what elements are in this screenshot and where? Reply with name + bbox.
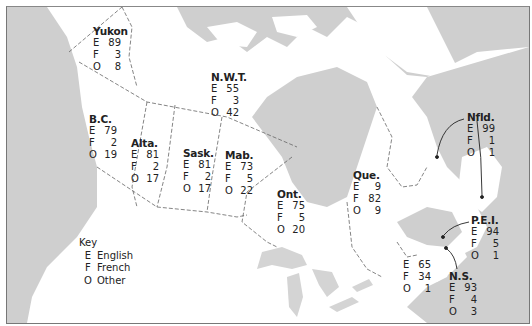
code-e: E: [131, 149, 143, 161]
code-f: F: [225, 173, 237, 185]
value-other: 1: [479, 147, 495, 159]
region-name: Nfld.: [467, 111, 495, 123]
code-o: O: [277, 224, 289, 236]
value-other: 3: [461, 306, 477, 318]
code-o: O: [403, 283, 415, 295]
code-o: O: [93, 61, 105, 73]
code-e: E: [277, 200, 289, 212]
code-e: E: [183, 159, 195, 171]
value-french: 4: [461, 294, 477, 306]
region-name: Sask.: [183, 147, 214, 159]
value-english: 79: [101, 125, 117, 137]
code-f: F: [211, 95, 223, 107]
code-o: O: [467, 147, 479, 159]
value-other: 17: [143, 173, 159, 185]
value-french: 2: [195, 171, 211, 183]
value-other: 22: [237, 185, 253, 197]
key-title: Key: [79, 237, 133, 250]
region-alberta: Alta. E81 F2 O17: [131, 137, 159, 185]
lake-michigan: [287, 273, 303, 317]
code-f: F: [403, 271, 415, 283]
value-other: 20: [289, 224, 305, 236]
value-french: 82: [365, 193, 381, 205]
value-english: 93: [461, 282, 477, 294]
value-other: 19: [101, 149, 117, 161]
code-f: F: [353, 193, 365, 205]
value-english: 89: [105, 37, 121, 49]
region-ontario: Ont. E75 F5 O20: [277, 188, 305, 236]
value-french: 2: [143, 161, 159, 173]
lake-superior: [257, 247, 307, 269]
region-yukon: Yukon E89 F3 O8: [93, 25, 128, 73]
code-o: O: [471, 250, 483, 262]
lake-huron: [312, 269, 339, 297]
region-pei: P.E.I. E94 F5 O1: [471, 214, 499, 262]
key-code: O: [79, 275, 97, 288]
value-other: 17: [195, 183, 211, 195]
value-other: 1: [415, 283, 431, 295]
value-french: 5: [483, 238, 499, 250]
value-french: 34: [415, 271, 431, 283]
value-french: 2: [101, 137, 117, 149]
lake-erie: [329, 297, 359, 312]
code-f: F: [131, 161, 143, 173]
region-name: Mab.: [225, 149, 253, 161]
code-e: E: [211, 83, 223, 95]
region-manitoba: Mab. E73 F5 O22: [225, 149, 253, 197]
value-other: 9: [365, 205, 381, 217]
value-french: 1: [479, 135, 495, 147]
code-o: O: [449, 306, 461, 318]
gulf-st-lawrence: [397, 207, 462, 247]
code-f: F: [183, 171, 195, 183]
code-e: E: [471, 226, 483, 238]
code-o: O: [225, 185, 237, 197]
value-english: 73: [237, 161, 253, 173]
code-e: E: [89, 125, 101, 137]
region-new-brunswick: E65 F34 O1: [403, 259, 431, 295]
region-nwt: N.W.T. E55 F3 O42: [211, 71, 247, 119]
value-other: 1: [483, 250, 499, 262]
code-e: E: [449, 282, 461, 294]
value-english: 81: [143, 149, 159, 161]
region-name: P.E.I.: [471, 214, 499, 226]
map-key: Key EEnglish FFrench OOther: [79, 237, 133, 287]
value-english: 75: [289, 200, 305, 212]
value-english: 65: [415, 259, 431, 271]
region-name: Yukon: [93, 25, 128, 37]
code-e: E: [93, 37, 105, 49]
region-name: N.S.: [449, 270, 477, 282]
region-bc: B.C. E79 F2 O19: [89, 113, 117, 161]
code-o: O: [353, 205, 365, 217]
value-french: 3: [105, 49, 121, 61]
key-code: F: [79, 262, 97, 275]
code-f: F: [467, 135, 479, 147]
code-o: O: [89, 149, 101, 161]
code-f: F: [449, 294, 461, 306]
value-english: 99: [479, 123, 495, 135]
value-french: 3: [223, 95, 239, 107]
region-quebec: Que. E9 F82 O9: [353, 169, 381, 217]
map-frame: Yukon E89 F3 O8 N.W.T. E55 F3 O42 B.C. E…: [6, 6, 530, 324]
code-f: F: [93, 49, 105, 61]
code-e: E: [225, 161, 237, 173]
value-french: 5: [289, 212, 305, 224]
lake-ontario: [352, 279, 373, 292]
region-saskatchewan: Sask. E81 F2 O17: [183, 147, 214, 195]
region-name: Que.: [353, 169, 381, 181]
value-english: 81: [195, 159, 211, 171]
code-o: O: [131, 173, 143, 185]
code-f: F: [277, 212, 289, 224]
code-f: F: [471, 238, 483, 250]
region-name: N.W.T.: [211, 71, 247, 83]
key-code: E: [79, 250, 97, 263]
region-name: Ont.: [277, 188, 305, 200]
code-e: E: [353, 181, 365, 193]
key-label: Other: [97, 275, 125, 288]
value-french: 5: [237, 173, 253, 185]
region-newfoundland: Nfld. E99 F1 O1: [467, 111, 495, 159]
key-label: English: [97, 250, 133, 263]
code-f: F: [89, 137, 101, 149]
region-nova-scotia: N.S. E93 F4 O3: [449, 270, 477, 318]
region-name: Alta.: [131, 137, 159, 149]
region-name: B.C.: [89, 113, 117, 125]
